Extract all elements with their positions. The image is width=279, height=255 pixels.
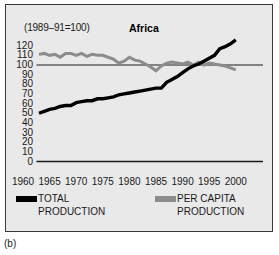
legend-label-total-production-line1: TOTAL: [38, 193, 69, 204]
y-tick-20: 20: [9, 137, 33, 147]
y-tick-50: 50: [9, 108, 33, 118]
legend-label-per-capita-production-line2: PRODUCTION: [177, 206, 244, 217]
y-tick-40: 40: [9, 118, 33, 128]
x-tick-1995: 1995: [194, 177, 224, 187]
index-base-note: (1989–91=100): [24, 22, 90, 33]
x-tick-1960: 1960: [8, 177, 38, 187]
x-tick-1985: 1985: [141, 177, 171, 187]
y-tick-0: 0: [9, 157, 33, 167]
y-tick-70: 70: [9, 89, 33, 99]
y-tick-120: 120: [9, 41, 33, 51]
y-tick-30: 30: [9, 128, 33, 138]
figure-panel: (1989–91=100) Africa 0102030405060708090…: [0, 0, 279, 255]
x-tick-2000: 2000: [221, 177, 251, 187]
legend-swatch-total-production: [16, 196, 37, 202]
y-tick-80: 80: [9, 79, 33, 89]
y-tick-90: 90: [9, 70, 33, 80]
figure-caption: (b): [4, 238, 16, 249]
legend-swatch-per-capita-production: [155, 196, 176, 202]
x-tick-1970: 1970: [61, 177, 91, 187]
y-tick-10: 10: [9, 147, 33, 157]
x-tick-1980: 1980: [114, 177, 144, 187]
x-tick-1975: 1975: [88, 177, 118, 187]
y-tick-110: 110: [9, 50, 33, 60]
legend-label-total-production-line2: PRODUCTION: [38, 206, 105, 217]
y-tick-100: 100: [9, 60, 33, 70]
y-tick-60: 60: [9, 99, 33, 109]
chart-title: Africa: [129, 22, 159, 34]
x-tick-1990: 1990: [168, 177, 198, 187]
x-tick-1965: 1965: [35, 177, 65, 187]
legend-label-per-capita-production-line1: PER CAPITA: [177, 193, 236, 204]
